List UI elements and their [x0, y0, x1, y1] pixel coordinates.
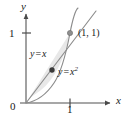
x-axis-tick-label-1: 1 [67, 104, 73, 115]
y-axis-label: y [21, 1, 26, 12]
point-marker-centroid [49, 67, 54, 72]
origin-label: 0 [10, 101, 16, 112]
curve-label-y-equals-x-squared: y=x2 [58, 66, 78, 77]
point-label-one-one: (1, 1) [78, 28, 100, 38]
y-axis-tick-label-1: 1 [9, 28, 15, 39]
point-marker-intersection [67, 30, 72, 35]
quadratic-label-equals: = [62, 66, 70, 77]
x-axis-label: x [116, 95, 121, 106]
linear-label-equals: = [34, 48, 42, 59]
figure-container: y x 1 1 0 y=x y=x2 (1, 1) [0, 0, 127, 115]
plot-area [0, 0, 127, 115]
curve-label-y-equals-x: y=x [30, 49, 47, 59]
linear-label-x: x [42, 48, 46, 59]
quadratic-label-exponent: 2 [75, 65, 79, 73]
